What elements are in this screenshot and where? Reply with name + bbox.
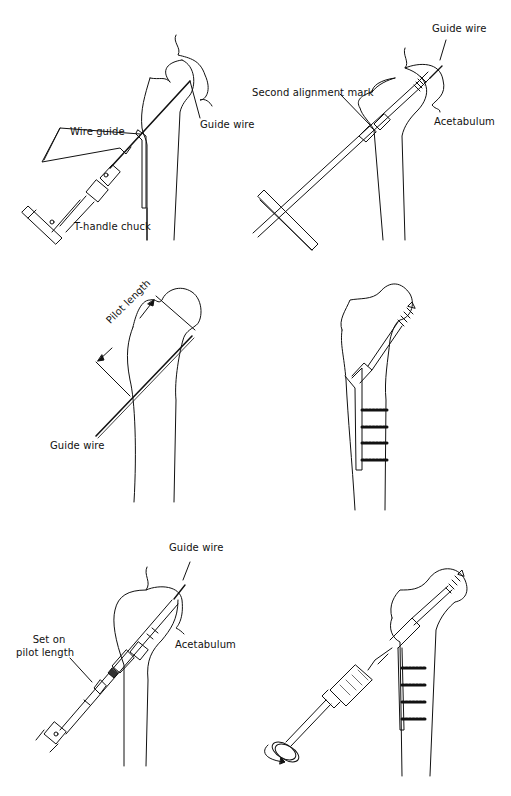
label-acetabulum: Acetabulum <box>434 116 495 127</box>
label-acetabulum: Acetabulum <box>175 639 236 650</box>
panel-middle-right-femur <box>341 284 412 510</box>
panel-bottom-right-femur <box>390 569 467 776</box>
label-guide-wire: Guide wire <box>50 440 105 451</box>
panel-top-right-instrument <box>253 40 446 250</box>
label-guide-wire: Guide wire <box>432 23 487 34</box>
panel-top-left-instrument <box>22 81 200 244</box>
label-wire-guide: Wire guide <box>70 126 125 137</box>
label-guide-wire: Guide wire <box>169 542 224 553</box>
panel-top-left-femur <box>142 35 212 240</box>
label-pilot-length: pilot length <box>16 647 74 658</box>
panel-middle-right-implant <box>345 302 415 470</box>
label-guide-wire: Guide wire <box>200 119 255 130</box>
label-second-alignment-mark: Second alignment mark <box>252 87 374 98</box>
panel-middle-left-femur <box>127 288 201 502</box>
cortical-screws <box>362 410 387 460</box>
label-t-handle-chuck: T-handle chuck <box>74 221 151 232</box>
label-set-on: Set on <box>24 634 74 645</box>
panel-bottom-right-inserter <box>265 648 392 766</box>
